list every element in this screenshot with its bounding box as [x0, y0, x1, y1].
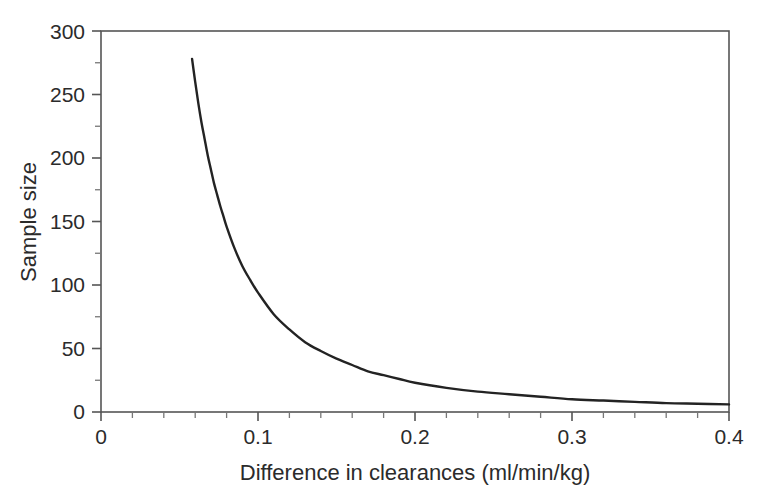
y-tick-label-250: 250 [50, 83, 85, 106]
y-tick-label-300: 300 [50, 20, 85, 43]
y-tick-label-200: 200 [50, 146, 85, 169]
chart-figure: 0 50 100 150 200 250 300 [0, 0, 767, 497]
x-tick-label-0p3: 0.3 [557, 425, 586, 448]
x-tick-label-0p1: 0.1 [243, 425, 272, 448]
sample-size-curve [192, 59, 729, 404]
x-axis-title: Difference in clearances (ml/min/kg) [240, 460, 591, 485]
y-axis-major-ticks [92, 31, 101, 412]
x-tick-label-0p4: 0.4 [714, 425, 744, 448]
x-tick-label-0p2: 0.2 [400, 425, 429, 448]
y-tick-label-150: 150 [50, 210, 85, 233]
y-tick-label-0: 0 [73, 400, 85, 423]
sample-size-line-chart: 0 50 100 150 200 250 300 [0, 0, 767, 497]
y-tick-label-100: 100 [50, 273, 85, 296]
x-tick-label-0: 0 [95, 425, 107, 448]
y-axis-title: Sample size [16, 162, 41, 282]
y-tick-label-50: 50 [62, 337, 85, 360]
